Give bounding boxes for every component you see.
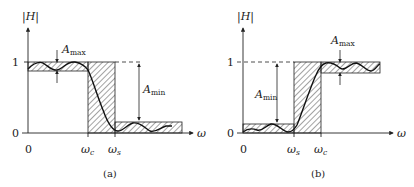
- amin-label: Amin: [254, 88, 277, 102]
- filter-specification-figure: |H| ω 1 0 0 ωc ωs Amax Amin (a) |H| ω 1 …: [0, 0, 414, 187]
- x-axis-label: ω: [197, 127, 206, 140]
- y-tick-0: 0: [12, 127, 19, 140]
- amin-label: Amin: [142, 83, 165, 97]
- transition-band-region: [88, 62, 115, 133]
- x-tick-ws: ωs: [108, 143, 121, 157]
- panel-a-lowpass: |H| ω 1 0 0 ωc ωs Amax Amin (a): [12, 10, 206, 179]
- x-tick-ws: ωs: [287, 143, 300, 157]
- x-tick-wc: ωc: [81, 143, 95, 157]
- y-axis-label: |H|: [237, 10, 254, 24]
- y-axis-label: |H|: [22, 10, 39, 24]
- panel-b-highpass: |H| ω 1 0 0 ωs ωc Amax Amin (b): [227, 10, 406, 179]
- x-tick-0: 0: [25, 143, 32, 156]
- caption-a: (a): [103, 168, 117, 179]
- y-tick-0: 0: [227, 127, 234, 140]
- y-tick-1: 1: [227, 56, 234, 69]
- amax-label: Amax: [330, 34, 356, 48]
- y-tick-1: 1: [12, 56, 19, 69]
- x-tick-wc: ωc: [314, 143, 328, 157]
- x-axis-label: ω: [397, 127, 406, 140]
- x-tick-0: 0: [240, 143, 247, 156]
- caption-b: (b): [311, 168, 325, 179]
- amax-label: Amax: [61, 43, 87, 57]
